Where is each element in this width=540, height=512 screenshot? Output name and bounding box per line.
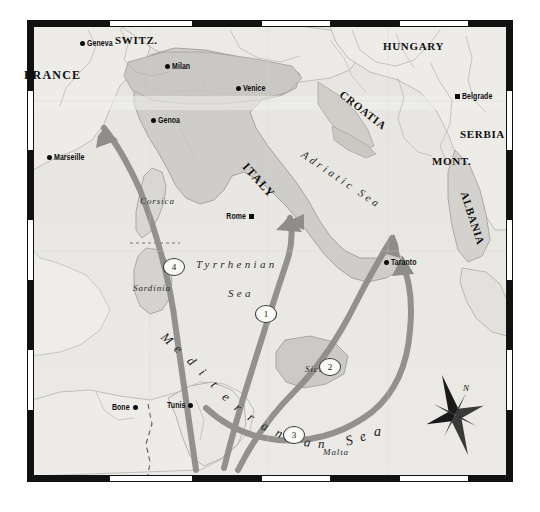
route-marker-4[interactable]: 4 [163, 258, 185, 276]
route-marker-1[interactable]: 1 [255, 305, 277, 323]
sea-label-letter: M [158, 329, 177, 348]
route-marker-3[interactable]: 3 [283, 426, 305, 444]
sea-label-letter: r [231, 400, 245, 416]
sea-label-letter: r [244, 409, 257, 425]
sea-label-letter: S [344, 432, 355, 449]
map-container: FRANCESWITZ.HUNGARYCROATIASERBIAMONT.ALB… [0, 0, 540, 512]
sea-label-letter: n [318, 436, 325, 452]
sea-label-letter: t [207, 378, 221, 391]
sea-label-letter: e [171, 341, 186, 357]
route-marker-label: 2 [328, 362, 333, 372]
sea-label-letter: i [195, 365, 209, 379]
route-marker-label: 4 [172, 262, 177, 272]
sea-label-letter: e [219, 389, 234, 405]
sea-label-letter: d [183, 353, 199, 369]
sea-label-letter: a [374, 424, 381, 440]
route-marker-label: 3 [292, 430, 297, 440]
route-marker-label: 1 [264, 309, 269, 319]
route-marker-2[interactable]: 2 [319, 358, 341, 376]
sea-label-letter: a [258, 418, 271, 435]
sea-label-letter: e [357, 428, 369, 445]
sea-label-mediterranean-sea: MediterraneanSea [0, 0, 540, 512]
